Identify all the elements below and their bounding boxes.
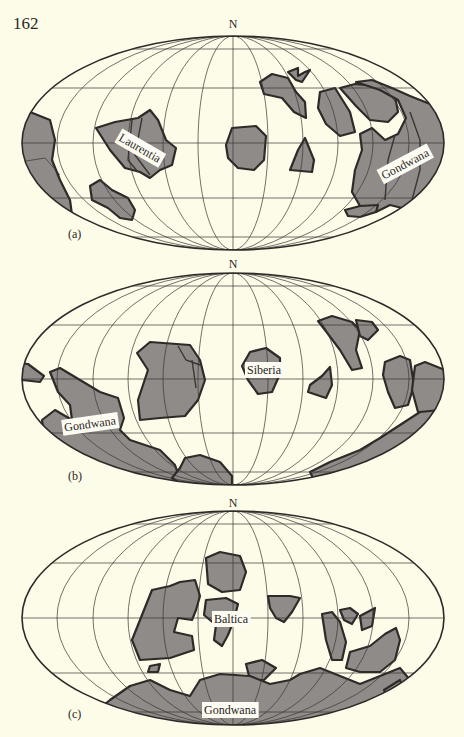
- continent-label-baltica: Baltica: [212, 611, 251, 627]
- paleogeographic-maps: LaurentiaGondwanaSiberiaGondwanaBalticaG…: [0, 0, 464, 737]
- continent-label-siberia: Siberia: [245, 362, 284, 378]
- map-a: [10, 36, 455, 250]
- svg-text:Siberia: Siberia: [247, 363, 282, 377]
- map-b: [10, 273, 450, 490]
- svg-text:Gondwana: Gondwana: [204, 703, 257, 717]
- svg-text:Baltica: Baltica: [214, 612, 249, 626]
- graticule-a: [22, 36, 444, 250]
- continents-a: [10, 68, 455, 220]
- continent-label-gondwana: Gondwana: [202, 702, 259, 718]
- continents-b: [10, 316, 450, 490]
